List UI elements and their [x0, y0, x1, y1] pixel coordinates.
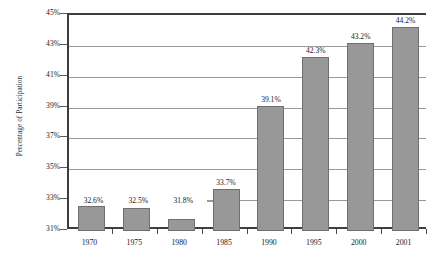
y-axis-tick-mark [60, 13, 67, 14]
x-axis-tick-label: 1990 [247, 239, 291, 247]
x-axis-tick-label: 1995 [292, 239, 336, 247]
x-axis-tick-label: 1980 [157, 239, 201, 247]
y-axis-tick-label: 39% [20, 102, 60, 110]
x-axis-tick-mark [247, 229, 248, 234]
bar-value-label: 31.8% [159, 197, 207, 205]
y-axis-tick-label: 33% [20, 194, 60, 202]
y-axis-tick-label: 31% [20, 225, 60, 233]
y-axis-tick-mark [60, 198, 67, 199]
bar [78, 206, 105, 231]
y-axis-tick-label: 41% [20, 71, 60, 79]
x-axis-tick-label: 1970 [67, 239, 111, 247]
y-axis-tick-mark [60, 136, 67, 137]
bar [347, 43, 374, 231]
y-axis-tick-mark [60, 229, 67, 230]
plot-inner: 32.6%32.5%31.8%33.7%39.1%42.3%43.2%44.2% [69, 15, 426, 227]
bar-value-label: 39.1% [249, 96, 293, 104]
bar-value-label: 32.5% [114, 197, 162, 205]
x-axis-tick-mark [336, 229, 337, 234]
bar [302, 57, 329, 231]
bar [123, 208, 150, 231]
y-axis-tick-label: 35% [20, 163, 60, 171]
x-axis-tick-mark [202, 229, 203, 234]
x-axis-tick-label: 1975 [112, 239, 156, 247]
x-axis-tick-label: 1985 [202, 239, 246, 247]
x-axis-tick-mark [112, 229, 113, 234]
x-axis-tick-label: 2000 [337, 239, 381, 247]
bar-value-label: 44.2% [384, 17, 428, 25]
bar [213, 189, 240, 231]
x-axis-tick-mark [381, 229, 382, 234]
bar-chart: Percentage of Participation 31%33%35%37%… [0, 0, 441, 265]
y-axis-tick-mark [60, 44, 67, 45]
x-axis-tick-mark [426, 229, 427, 234]
y-axis-tick-mark [60, 167, 67, 168]
bar-value-label: 43.2% [339, 33, 383, 41]
plot-area: 32.6%32.5%31.8%33.7%39.1%42.3%43.2%44.2% [67, 13, 426, 229]
y-axis-title: Percentage of Participation [16, 36, 24, 196]
y-axis-tick-label: 43% [20, 40, 60, 48]
y-axis-tick-label: 37% [20, 132, 60, 140]
bar-value-label: 32.6% [69, 197, 117, 205]
bar [257, 106, 284, 231]
x-axis-tick-mark [157, 229, 158, 234]
y-axis-tick-mark [60, 106, 67, 107]
y-axis-tick-label: 45% [20, 9, 60, 17]
x-axis-tick-label: 2001 [382, 239, 426, 247]
bar-value-label: 42.3% [294, 47, 338, 55]
x-axis-tick-mark [291, 229, 292, 234]
bar-value-label: 33.7% [204, 179, 248, 187]
bar [168, 219, 195, 231]
bar [392, 27, 419, 231]
y-axis-tick-mark [60, 75, 67, 76]
